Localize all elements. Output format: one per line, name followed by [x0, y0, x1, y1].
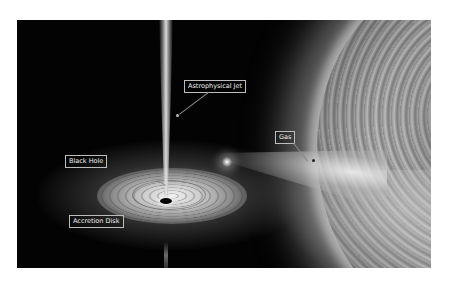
pointer-dot-jet	[176, 114, 179, 117]
pointer-dot-gas	[312, 159, 315, 162]
label-astrophysical-jet: Astrophysical Jet	[184, 80, 246, 93]
label-black-hole: Black Hole	[65, 155, 107, 168]
accretion-disk-ring	[132, 180, 206, 210]
black-hole	[160, 198, 172, 204]
leader-line-jet	[179, 92, 209, 115]
hot-spot	[222, 157, 232, 167]
black-hole-illustration: Astrophysical Jet Black Hole Accretion D…	[17, 20, 431, 268]
label-accretion-disk: Accretion Disk	[69, 215, 124, 228]
label-gas: Gas	[275, 131, 295, 144]
astrophysical-jet-lower	[164, 242, 168, 268]
